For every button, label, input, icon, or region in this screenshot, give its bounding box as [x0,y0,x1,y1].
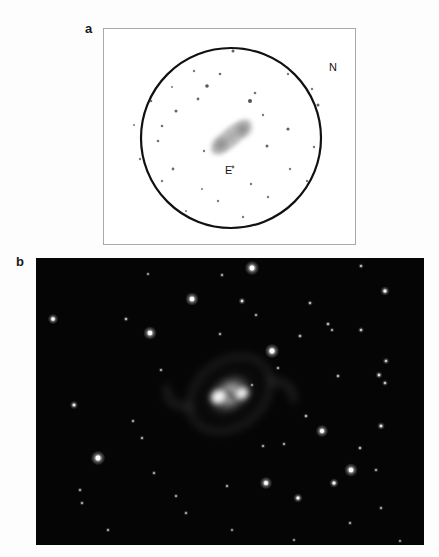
photo-star [262,445,264,447]
photo-star [384,382,386,384]
sketch-star [266,145,269,148]
photo-star [132,420,134,422]
photo-star [296,496,299,499]
photo-star [125,318,127,320]
sketch-star [289,168,291,170]
sketch-star [161,180,163,182]
sketch-star [161,125,164,128]
photo-star [153,472,155,474]
sketch-star [313,146,315,148]
direction-label-north: N [329,62,337,73]
photo-star [399,540,401,542]
photo-star [251,384,253,386]
photo-star [385,360,387,362]
photo-star [283,443,285,445]
photo-star [241,300,243,302]
photo-star [175,495,177,497]
sketch-star [254,92,257,95]
photo-star [79,489,81,491]
sketch-star [250,183,252,185]
sketch-star [172,168,175,171]
panel-a-eyepiece-sketch: N E [103,28,356,245]
sketch-star [150,100,153,103]
photo-star [147,273,149,275]
photo-star [293,539,295,541]
photo-star [160,369,162,371]
photo-star [264,481,268,485]
photo-star [309,302,311,304]
photo-star [337,375,339,377]
panel-b-ccd-photograph [36,258,424,545]
photo-star [360,265,362,267]
photo-star [73,404,76,407]
sketch-star [317,104,320,107]
photo-star [349,522,351,524]
sketch-star [203,150,205,152]
photo-star [148,331,152,335]
photo-star [320,429,324,433]
sketch-star [311,88,313,90]
sketch-star [217,200,219,202]
sketch-star [286,127,289,130]
photo-star [332,481,335,484]
photo-star [375,469,377,471]
photo-star [299,335,301,337]
panel-b-label: b [16,255,24,268]
photo-star [331,329,333,331]
sketch-star [157,140,160,143]
photo-star [221,274,223,276]
photo-star [359,447,361,449]
panel-a-canvas [104,29,357,246]
sketch-star [262,114,264,116]
photo-star [349,468,353,472]
photo-star [96,456,101,461]
photo-star [327,323,329,325]
sketch-star [193,70,195,72]
sketch-star [185,210,187,212]
photo-star [219,333,221,335]
sketch-star [219,73,222,76]
photo-star [81,502,83,504]
photo-star [380,507,382,509]
sketch-star [201,188,203,190]
sketch-star [232,50,235,53]
sketch-star [171,86,173,88]
sketch-star [242,216,244,218]
direction-label-east: E [225,165,232,176]
photo-star [51,317,54,320]
photo-star [107,529,109,531]
sketch-star [133,124,135,126]
photo-star [226,485,228,487]
panel-b-canvas [36,258,424,545]
sketch-star [197,98,200,101]
photo-star [378,374,380,376]
sketch-star [248,99,252,103]
sketch-star [267,196,269,198]
sketch-star [306,180,308,182]
photo-star [270,349,275,354]
photo-star [360,329,362,331]
photo-star [380,425,383,428]
sketch-star [175,110,178,113]
photo-star [305,415,307,417]
sketch-star [287,73,289,75]
sketch-star [139,158,141,160]
photo-star [231,529,233,531]
photo-star [250,266,255,271]
sketch-star [205,84,209,88]
panel-a-label: a [85,22,92,35]
photo-star [141,437,143,439]
photo-star [185,512,187,514]
photo-star [190,297,194,301]
photo-star [383,289,386,292]
photo-star [255,314,257,316]
photo-star [277,367,279,369]
